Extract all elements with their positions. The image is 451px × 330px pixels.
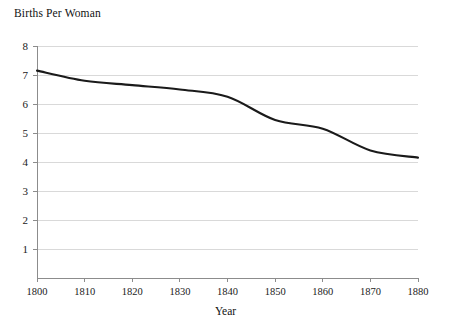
x-tick-label: 1880 [408,286,429,297]
chart-plot-area: 12345678 1800181018201830184018501860187… [0,0,451,330]
x-tick-label: 1860 [312,286,333,297]
y-tick-label: 6 [23,98,29,110]
y-tick-label: 2 [23,214,29,226]
y-axis: 12345678 [23,40,38,278]
x-tick-label: 1810 [74,286,95,297]
y-tick-label: 8 [23,40,29,52]
x-tick-label: 1830 [169,286,190,297]
series-line-births-per-woman [37,71,418,158]
chart-container: Births Per Woman 12345678 18001810182018… [0,0,451,330]
x-tick-label: 1820 [122,286,143,297]
y-tick-label: 1 [23,243,29,255]
y-tick-label: 5 [23,127,29,139]
x-tick-label: 1870 [360,286,381,297]
x-tick-label: 1840 [217,286,238,297]
y-tick-label: 7 [23,69,29,81]
x-axis: 180018101820183018401850186018701880 [27,278,429,297]
x-axis-title: Year [0,305,451,317]
y-tick-label: 3 [23,185,29,197]
x-tick-label: 1850 [265,286,286,297]
data-series [37,71,418,158]
x-tick-label: 1800 [27,286,48,297]
y-tick-label: 4 [23,156,29,168]
